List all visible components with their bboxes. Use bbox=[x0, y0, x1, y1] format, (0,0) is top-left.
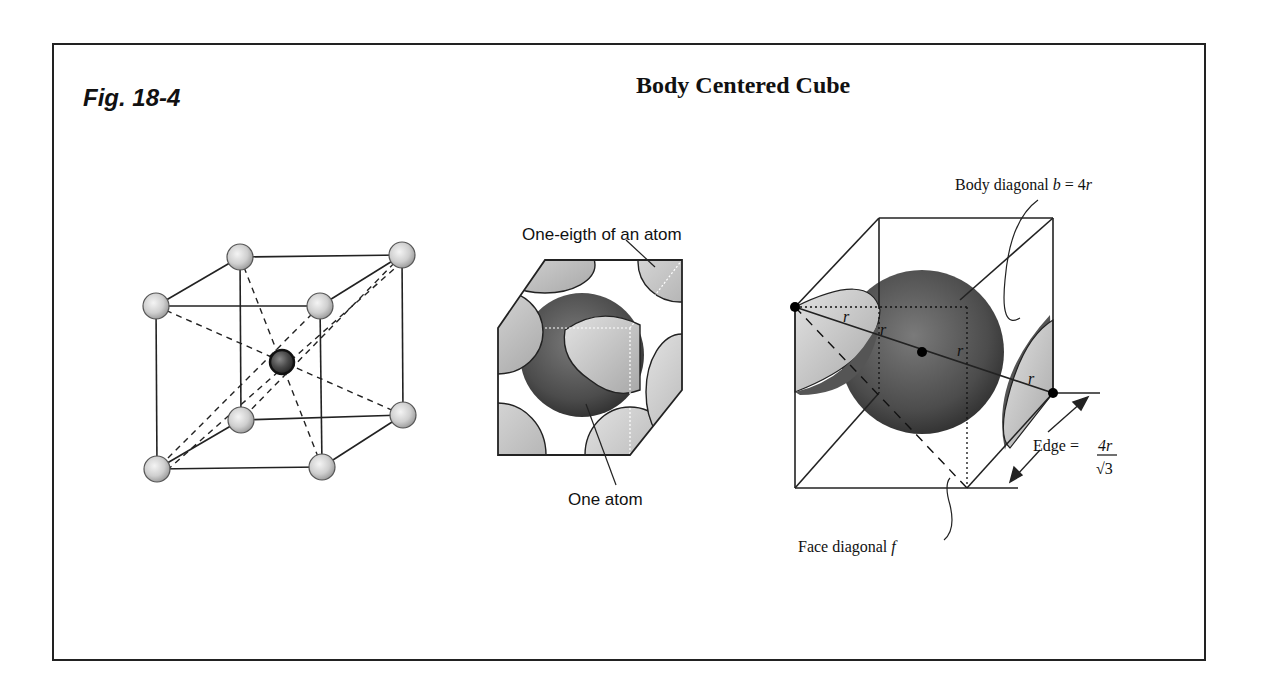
diagram-canvas: One-eigth of an atom One atom bbox=[0, 0, 1263, 694]
corner-atom bbox=[307, 293, 333, 319]
center-atom bbox=[270, 350, 294, 374]
space-filling-diagram: One-eigth of an atom One atom bbox=[450, 222, 722, 509]
corner-atom bbox=[389, 242, 415, 268]
geometry-diagram: r r r r Body diagonal b = 4r Face diagon… bbox=[790, 176, 1117, 556]
radius-label: r bbox=[1028, 370, 1035, 387]
corner-atom bbox=[227, 244, 253, 270]
corner-atom bbox=[143, 293, 169, 319]
edge-numerator: 4r bbox=[1098, 437, 1113, 454]
corner-atom bbox=[390, 402, 416, 428]
radius-label: r bbox=[843, 308, 850, 325]
face-diagonal-label: Face diagonal f bbox=[798, 538, 898, 556]
body-diagonal-label: Body diagonal b = 4r bbox=[955, 176, 1093, 194]
center-point bbox=[917, 347, 927, 357]
center-atom-label: One atom bbox=[568, 490, 643, 509]
edge-label: Edge = bbox=[1033, 437, 1079, 455]
corner-point bbox=[1048, 388, 1058, 398]
radius-label: r bbox=[957, 342, 964, 359]
corner-atom bbox=[309, 454, 335, 480]
corner-atom bbox=[228, 407, 254, 433]
corner-point bbox=[790, 302, 800, 312]
radius-label: r bbox=[880, 321, 887, 338]
edge-denominator: √3 bbox=[1096, 460, 1113, 477]
corner-atom bbox=[144, 456, 170, 482]
corner-fraction-label: One-eigth of an atom bbox=[522, 225, 682, 244]
